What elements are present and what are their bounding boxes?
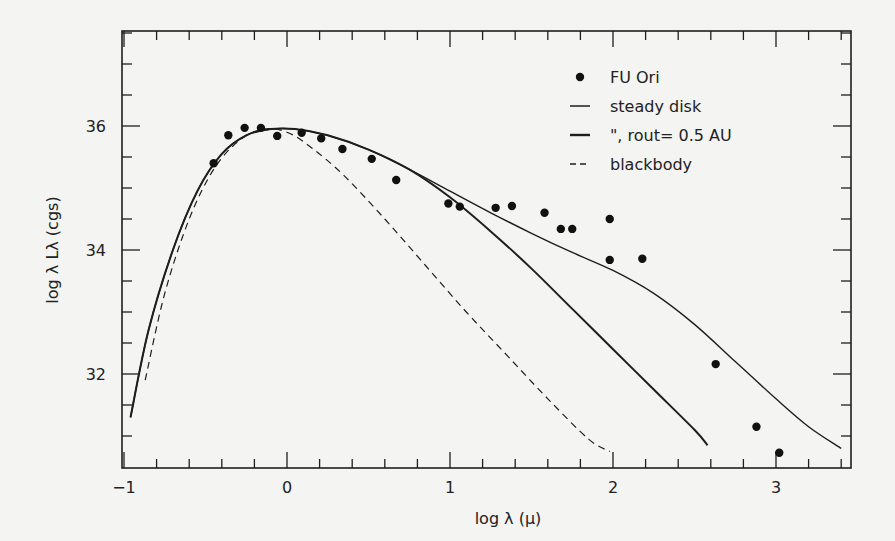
data-point bbox=[392, 176, 400, 184]
y-tick-label: 34 bbox=[86, 241, 106, 260]
plot-frame bbox=[122, 31, 851, 468]
legend-dot-icon bbox=[576, 73, 584, 81]
data-point bbox=[568, 225, 576, 233]
x-axis-title: log λ (μ) bbox=[475, 509, 542, 528]
axis-ticks bbox=[122, 31, 851, 468]
x-tick-label: 3 bbox=[771, 478, 781, 497]
data-point bbox=[606, 256, 614, 264]
data-point bbox=[240, 124, 248, 132]
x-tick-label: 1 bbox=[445, 478, 455, 497]
y-axis-title: log λ Lλ (cgs) bbox=[43, 196, 62, 303]
data-point bbox=[638, 254, 646, 262]
curve-blackbody bbox=[145, 128, 610, 451]
legend-label: steady disk bbox=[610, 97, 702, 116]
x-tick-label: 0 bbox=[282, 478, 292, 497]
data-point bbox=[508, 202, 516, 210]
data-points bbox=[209, 124, 783, 457]
data-point bbox=[540, 209, 548, 217]
y-tick-label: 36 bbox=[86, 117, 106, 136]
data-point bbox=[444, 199, 452, 207]
data-point bbox=[606, 215, 614, 223]
legend-label: blackbody bbox=[610, 155, 692, 174]
curve-steady-disk bbox=[131, 128, 842, 448]
data-point bbox=[224, 131, 232, 139]
axis-labels: −10123323436log λ (μ)log λ Lλ (cgs) bbox=[43, 117, 781, 528]
data-point bbox=[775, 449, 783, 457]
legend-label: ", rout= 0.5 AU bbox=[610, 126, 732, 145]
data-point bbox=[338, 145, 346, 153]
data-point bbox=[752, 423, 760, 431]
y-tick-label: 32 bbox=[86, 365, 106, 384]
plot-border bbox=[122, 31, 851, 468]
legend-label: FU Ori bbox=[610, 68, 660, 87]
data-point bbox=[317, 134, 325, 142]
data-point bbox=[557, 225, 565, 233]
sed-chart: −10123323436log λ (μ)log λ Lλ (cgs) FU O… bbox=[0, 0, 895, 541]
legend: FU Oristeady disk", rout= 0.5 AUblackbod… bbox=[570, 68, 732, 174]
model-curves bbox=[131, 128, 842, 451]
data-point bbox=[456, 202, 464, 210]
data-point bbox=[368, 155, 376, 163]
data-point bbox=[209, 159, 217, 167]
data-point bbox=[491, 204, 499, 212]
data-point bbox=[711, 360, 719, 368]
data-point bbox=[273, 132, 281, 140]
data-point bbox=[297, 129, 305, 137]
x-tick-label: −1 bbox=[112, 478, 136, 497]
data-point bbox=[257, 124, 265, 132]
curve-rout-0-5-au bbox=[131, 128, 708, 445]
x-tick-label: 2 bbox=[608, 478, 618, 497]
